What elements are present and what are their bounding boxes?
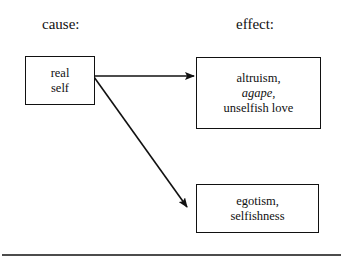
- cause-box-real-self: real self: [25, 56, 95, 105]
- arrow-to-egotism: [94, 77, 187, 207]
- effect-box-egotism: egotism, selfishness: [196, 184, 319, 233]
- effect1-line-3: unselfish love: [224, 101, 294, 116]
- effect-box-altruism: altruism, agape, unselfish love: [196, 57, 321, 129]
- effect1-line-2: agape,: [242, 86, 276, 101]
- effect1-line-1: altruism,: [236, 71, 280, 86]
- effect2-line-1: egotism,: [236, 194, 279, 209]
- cause-line-2: self: [51, 81, 69, 96]
- cause-line-1: real: [51, 66, 70, 81]
- effect2-line-2: selfishness: [230, 209, 284, 224]
